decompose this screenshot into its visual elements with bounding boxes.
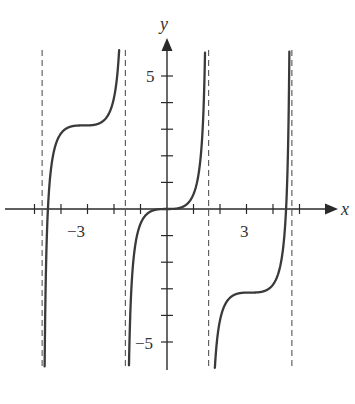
x-tick-label-neg3: −3	[67, 222, 85, 241]
y-axis-label: y	[158, 14, 168, 34]
x-axis-arrow-icon	[325, 204, 338, 215]
function-plot: x y −3 3 5 −5	[0, 0, 355, 404]
x-tick-label-3: 3	[240, 222, 249, 241]
y-tick-label-neg5: −5	[135, 334, 153, 353]
x-axis-label: x	[340, 199, 349, 219]
y-tick-label-5: 5	[146, 67, 155, 86]
y-axis-arrow-icon	[162, 38, 173, 51]
